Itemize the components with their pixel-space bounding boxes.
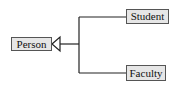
class-node-student[interactable]: Student xyxy=(126,9,169,24)
class-label-faculty: Faculty xyxy=(130,67,163,79)
class-label-person: Person xyxy=(17,38,47,50)
class-node-person[interactable]: Person xyxy=(11,37,52,51)
class-node-faculty[interactable]: Faculty xyxy=(126,65,166,81)
generalization-arrowhead-icon xyxy=(52,37,60,51)
class-label-student: Student xyxy=(131,10,165,22)
inheritance-diagram: Person Student Faculty xyxy=(0,0,178,89)
